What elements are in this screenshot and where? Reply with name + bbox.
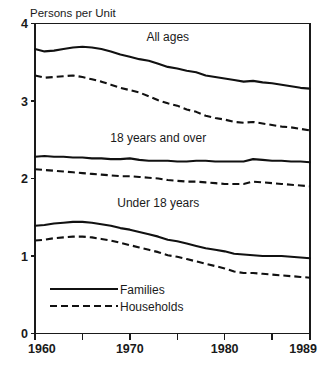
x-tick-label-1960: 1960 xyxy=(28,342,56,356)
y-tick-label-1: 1 xyxy=(21,250,28,264)
series-line-18-years-and-over-households xyxy=(35,169,310,186)
group-label-under-18-years: Under 18 years xyxy=(117,196,199,210)
y-axis-title: Persons per Unit xyxy=(30,7,116,19)
y-tick-label-4: 4 xyxy=(21,17,28,31)
chart-figure: Persons per Unit012341960197019801989All… xyxy=(0,0,335,369)
persons-per-unit-line-chart: Persons per Unit012341960197019801989All… xyxy=(0,0,335,369)
x-tick-label-1970: 1970 xyxy=(116,342,144,356)
plot-frame xyxy=(35,24,310,334)
y-tick-label-3: 3 xyxy=(21,95,28,109)
y-tick-label-2: 2 xyxy=(21,172,28,186)
x-tick-label-1980: 1980 xyxy=(211,342,239,356)
legend-label-households: Households xyxy=(120,300,183,314)
series-line-18-years-and-over-families xyxy=(35,156,310,162)
series-line-all-ages-families xyxy=(35,47,310,89)
group-label-all-ages: All ages xyxy=(146,30,189,44)
x-tick-label-1989: 1989 xyxy=(289,342,317,356)
legend-label-families: Families xyxy=(120,283,165,297)
group-label-18-years-and-over: 18 years and over xyxy=(110,131,206,145)
y-tick-label-0: 0 xyxy=(21,327,28,341)
series-line-under-18-years-families xyxy=(35,222,310,258)
series-line-under-18-years-households xyxy=(35,237,310,278)
